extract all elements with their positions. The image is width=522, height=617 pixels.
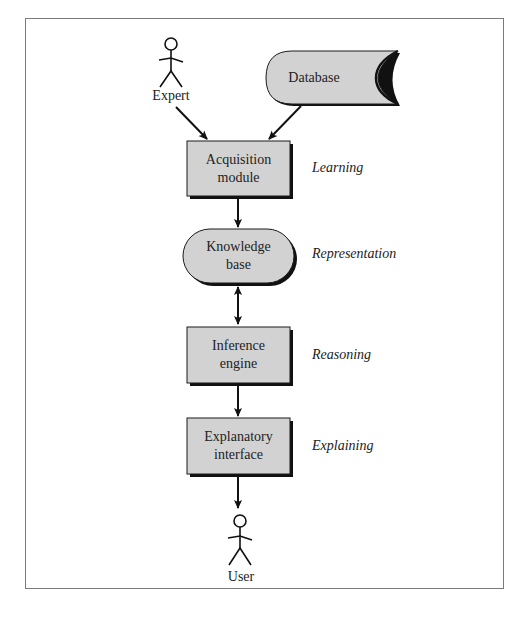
edge-database-acquisition bbox=[269, 106, 301, 139]
acquisition-module-label: Acquisition module bbox=[187, 151, 290, 187]
explanatory-line2: interface bbox=[187, 446, 290, 464]
explanatory-interface-label: Explanatory interface bbox=[187, 428, 290, 464]
side-label-explaining: Explaining bbox=[312, 438, 373, 454]
diagram-canvas bbox=[0, 0, 522, 617]
explanatory-line1: Explanatory bbox=[187, 428, 290, 446]
expert-actor-icon bbox=[159, 38, 183, 87]
acquisition-line1: Acquisition bbox=[187, 151, 290, 169]
side-label-reasoning: Reasoning bbox=[312, 347, 371, 363]
inference-engine-label: Inference engine bbox=[187, 337, 290, 373]
knowledge-base-label: Knowledge base bbox=[183, 238, 294, 274]
database-label: Database bbox=[268, 69, 360, 87]
edge-expert-acquisition bbox=[176, 107, 207, 139]
user-actor-icon bbox=[228, 515, 252, 565]
user-label: User bbox=[211, 569, 271, 585]
expert-label: Expert bbox=[141, 88, 201, 104]
inference-line1: Inference bbox=[187, 337, 290, 355]
knowledge-line1: Knowledge bbox=[183, 238, 294, 256]
inference-line2: engine bbox=[187, 355, 290, 373]
side-label-learning: Learning bbox=[312, 160, 363, 176]
acquisition-line2: module bbox=[187, 169, 290, 187]
knowledge-line2: base bbox=[183, 256, 294, 274]
side-label-representation: Representation bbox=[312, 246, 396, 262]
